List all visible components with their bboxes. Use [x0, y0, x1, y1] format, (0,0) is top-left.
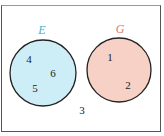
set-e-label: E: [37, 23, 46, 37]
element-3-outside: 3: [79, 104, 85, 116]
set-e-circle: [10, 40, 76, 106]
element-6: 6: [50, 67, 56, 79]
element-4: 4: [26, 53, 32, 65]
element-2: 2: [125, 79, 131, 91]
venn-diagram: E G 4 6 5 1 2 3: [0, 0, 164, 136]
set-g-circle: [87, 38, 151, 102]
element-5: 5: [32, 82, 38, 94]
set-g-label: G: [116, 22, 125, 36]
element-1: 1: [107, 51, 113, 63]
